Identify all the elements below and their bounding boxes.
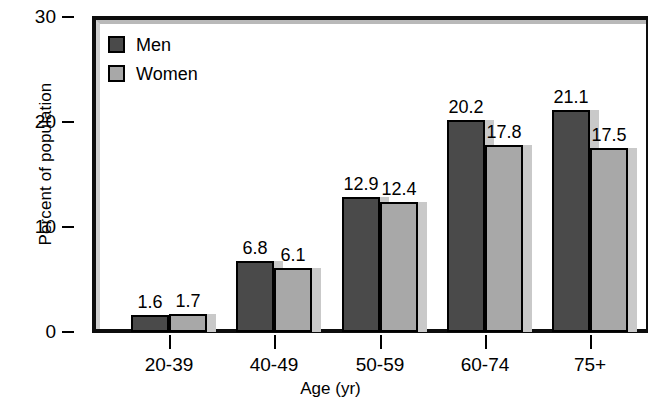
legend: Men Women [108,30,198,88]
legend-swatch-men-icon [108,36,125,53]
y-tick-mark-0 [62,331,74,333]
bar-women-50-59 [380,202,418,332]
x-tick-label-50-59: 50-59 [356,355,405,374]
bar-value-label: 21.1 [540,88,602,106]
y-tick-label-20: 20 [14,112,56,131]
bar-women-60-74 [485,145,523,332]
bar-value-label: 20.2 [435,98,497,116]
x-axis-title: Age (yr) [0,380,661,397]
legend-item-men: Men [108,30,198,59]
x-tick-label-75+: 75+ [574,355,606,374]
bar-chart: Percent of population 0 10 20 30 Men Wom… [0,0,661,402]
x-tick-mark-50-59 [380,335,382,349]
y-tick-mark-10 [62,226,74,228]
bar-men-50-59 [342,197,380,332]
y-tick-mark-30 [62,16,74,18]
legend-label-men: Men [136,36,171,54]
x-tick-mark-60-74 [485,335,487,349]
bar-men-60-74 [447,120,485,332]
bar-value-label: 12.4 [368,180,430,198]
y-axis-title: Percent of population [36,14,56,314]
y-tick-mark-20 [62,121,74,123]
bar-value-label: 6.1 [262,246,324,264]
y-tick-label-10: 10 [14,217,56,236]
bar-value-label: 1.7 [157,292,219,310]
x-tick-label-40-49: 40-49 [250,355,299,374]
x-tick-mark-40-49 [274,335,276,349]
y-tick-label-30: 30 [14,7,56,26]
legend-item-women: Women [108,59,198,88]
x-tick-label-20-39: 20-39 [145,355,194,374]
legend-label-women: Women [136,65,198,83]
legend-swatch-women-icon [108,65,125,82]
x-tick-label-60-74: 60-74 [461,355,510,374]
bar-men-40-49 [236,261,274,332]
bar-men-20-39 [131,315,169,332]
bar-value-label: 17.5 [578,126,640,144]
bar-value-label: 17.8 [473,123,535,141]
x-tick-mark-75+ [590,335,592,349]
bar-women-20-39 [169,314,207,332]
plot-area: Men Women 1.61.76.86.112.912.420.217.821… [92,16,648,333]
y-tick-label-0: 0 [14,322,56,341]
bar-women-75+ [590,148,628,332]
x-tick-mark-20-39 [169,335,171,349]
bar-women-40-49 [274,268,312,332]
